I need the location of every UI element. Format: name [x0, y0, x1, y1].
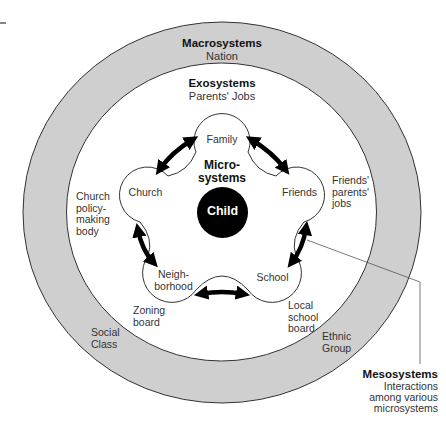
- arrow-neighborhood-school: [201, 292, 243, 294]
- mesosystems-subtitle: Interactions among various microsystems: [330, 381, 438, 414]
- petal-church: Church: [118, 187, 173, 199]
- social-class-label: Social Class: [91, 327, 120, 350]
- child-label: Child: [197, 204, 248, 218]
- petal-neighborhood: Neigh- borhood: [146, 269, 201, 292]
- exosystems-subtitle: Parents' Jobs: [172, 90, 272, 102]
- microsystems-title: Micro- systems: [187, 159, 257, 185]
- zoning-board-label: Zoning board: [133, 305, 165, 328]
- exosystems-label: Exosystems Parents' Jobs: [172, 77, 272, 102]
- local-school-board-label: Local school board: [288, 300, 318, 335]
- macrosystems-subtitle: Nation: [172, 50, 272, 62]
- petal-family: Family: [197, 134, 247, 146]
- macrosystems-label: Macrosystems Nation: [172, 37, 272, 62]
- petal-friends: Friends: [272, 187, 327, 199]
- mesosystems-label: Mesosystems Interactions among various m…: [330, 368, 438, 414]
- exosystems-title: Exosystems: [172, 77, 272, 90]
- macrosystems-title: Macrosystems: [172, 37, 272, 50]
- friends-parents-jobs-label: Friends' parents' jobs: [332, 175, 369, 210]
- ethnic-group-label: Ethnic Group: [322, 331, 351, 354]
- church-policy-label: Church policy- making body: [76, 191, 110, 237]
- petal-school: School: [245, 272, 300, 284]
